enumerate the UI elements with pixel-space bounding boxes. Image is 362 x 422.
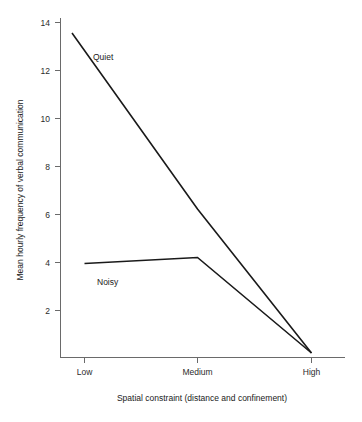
x-axis-title: Spatial constraint (distance and confine… — [117, 393, 287, 403]
chart-background — [0, 0, 362, 422]
y-tick-label-14: 14 — [41, 18, 51, 28]
y-axis-title: Mean hourly frequency of verbal communic… — [15, 99, 25, 280]
chart-figure: 14 12 10 8 6 4 2 Low Medium High Quiet N… — [0, 0, 362, 422]
y-tick-label-2: 2 — [45, 306, 50, 316]
y-tick-label-8: 8 — [45, 162, 50, 172]
x-tick-label-low: Low — [77, 367, 93, 377]
series-label-noisy: Noisy — [97, 277, 119, 287]
y-tick-label-10: 10 — [41, 114, 51, 124]
x-tick-label-high: High — [303, 367, 321, 377]
y-tick-label-4: 4 — [45, 258, 50, 268]
x-tick-label-medium: Medium — [182, 367, 212, 377]
series-label-quiet: Quiet — [93, 52, 114, 62]
line-chart: 14 12 10 8 6 4 2 Low Medium High Quiet N… — [0, 0, 362, 422]
y-tick-label-12: 12 — [41, 66, 51, 76]
y-tick-label-6: 6 — [45, 210, 50, 220]
